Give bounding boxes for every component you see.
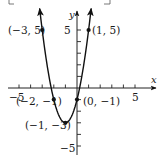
- y-tick-label-min: −5: [60, 142, 75, 154]
- frame-corners: [9, 0, 110, 4]
- labeled-points: [40, 28, 91, 125]
- point-label-neg2-neg1: (−2, −1): [16, 95, 62, 107]
- parabola-graph: x −5 5 y 5 −5 (−3, 5) (1, 5) (−2, −1) (0…: [0, 0, 158, 156]
- data-point: [75, 98, 79, 102]
- y-axis: y 5 −5: [60, 9, 81, 155]
- data-point: [87, 28, 91, 32]
- x-tick-label-max: 5: [132, 91, 139, 103]
- point-label-neg3-5: (−3, 5): [8, 24, 45, 36]
- x-axis-label: x: [151, 74, 157, 85]
- y-axis-label: y: [68, 9, 75, 20]
- y-tick-label-max: 5: [64, 24, 71, 36]
- point-label-1-5: (1, 5): [92, 24, 120, 36]
- point-label-0-neg1: (0, −1): [83, 95, 120, 107]
- point-label-neg1-neg3: (−1, −3): [25, 119, 71, 131]
